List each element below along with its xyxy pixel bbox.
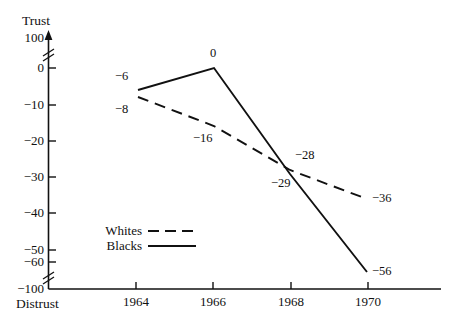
legend-label-blacks: Blacks (80, 239, 142, 252)
y-axis-title-trust: Trust (22, 14, 50, 28)
x-tick-label-1964: 1964 (106, 295, 166, 308)
y-tick-label-minus30: −30 (0, 170, 44, 183)
x-tick-label-1966: 1966 (183, 295, 243, 308)
y-tick-label-0: 0 (0, 61, 44, 74)
y-tick-label-minus10: −10 (0, 98, 44, 111)
y-tick-label-minus60: −60 (0, 255, 44, 268)
point-label-whites-1968: −28 (295, 149, 315, 162)
point-label-blacks-1964: −6 (115, 70, 128, 83)
y-tick-label-minus20: −20 (0, 134, 44, 147)
y-tick-label-100: 100 (0, 31, 44, 44)
point-label-whites-1966: −16 (193, 132, 213, 145)
point-label-blacks-1970: −56 (372, 265, 392, 278)
point-label-whites-1964: −8 (115, 103, 128, 116)
y-axis-ticks (49, 68, 57, 262)
x-tick-label-1970: 1970 (338, 295, 398, 308)
point-label-blacks-1966: 0 (210, 47, 216, 60)
point-label-whites-1970: −36 (372, 192, 392, 205)
point-label-blacks-1968: −29 (271, 177, 291, 190)
x-axis-ticks (136, 282, 368, 289)
y-tick-label-minus100: −100 (0, 282, 44, 295)
series-line-whites (138, 97, 367, 199)
series-line-blacks (138, 68, 367, 272)
x-tick-label-1968: 1968 (261, 295, 321, 308)
y-tick-label-minus40: −40 (0, 206, 44, 219)
chart-figure: Trust Distrust 100 0 −10 −20 −30 −40 −50… (0, 0, 451, 327)
y-axis-title-distrust: Distrust (16, 297, 59, 311)
y-axis-arrowhead (45, 30, 53, 40)
legend-label-whites: Whites (80, 224, 142, 237)
